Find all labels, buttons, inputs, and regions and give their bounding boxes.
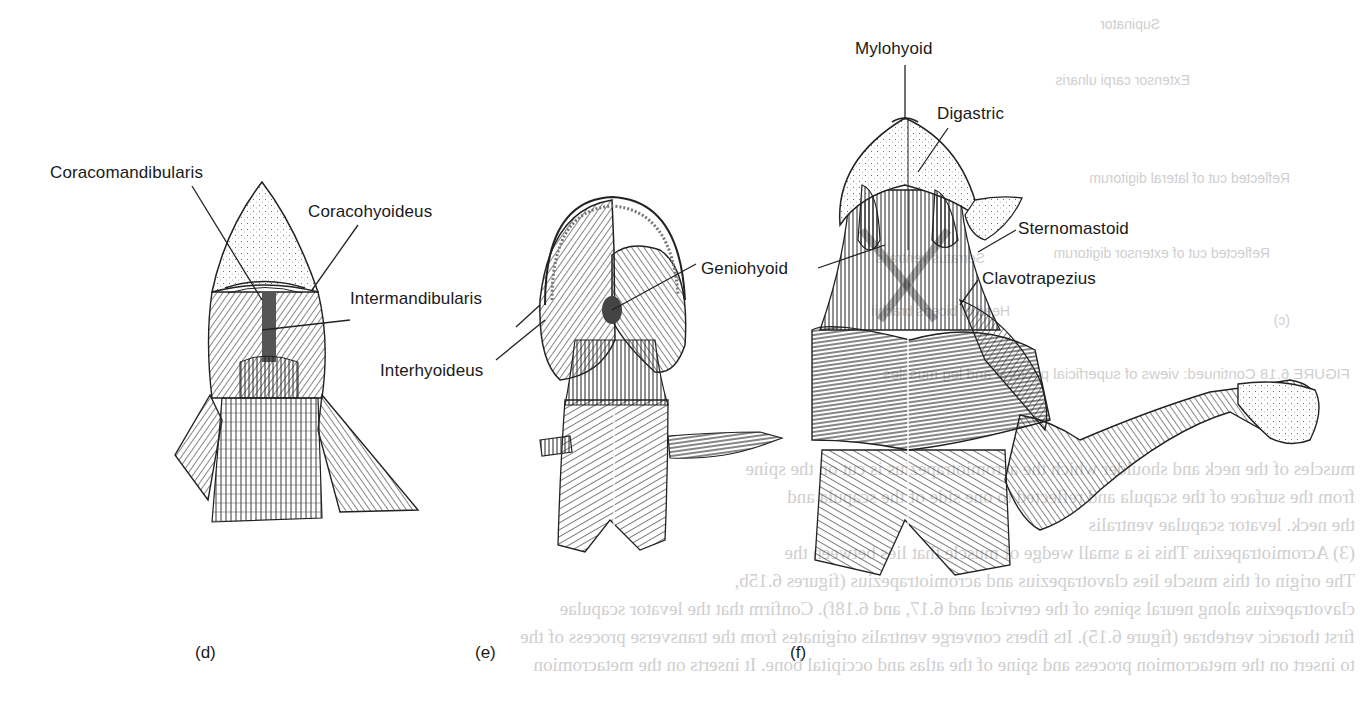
label-mylohyoid: Mylohyoid xyxy=(855,40,932,58)
panel-letter-e: (e) xyxy=(475,643,496,663)
panel-letter-f: (f) xyxy=(790,643,806,663)
label-coracomandibularis: Coracomandibularis xyxy=(50,164,203,182)
label-intermandibularis: Intermandibularis xyxy=(350,290,482,308)
panel-letter-d: (d) xyxy=(195,643,216,663)
label-clavotrapezius: Clavotrapezius xyxy=(982,270,1096,288)
label-interhyoideus: Interhyoideus xyxy=(380,362,483,380)
textbook-page: Supinator Extensor carpi ulnaris Reflect… xyxy=(0,0,1364,701)
label-digastric: Digastric xyxy=(937,105,1004,123)
label-geniohyoid: Geniohyoid xyxy=(701,260,788,278)
cat-specimen xyxy=(812,118,1319,575)
label-coracohyoideus: Coracohyoideus xyxy=(308,203,432,221)
mudpuppy-specimen xyxy=(540,197,782,552)
anatomy-illustrations xyxy=(0,0,1364,701)
shark-specimen xyxy=(175,182,418,522)
label-sternomastoid: Sternomastoid xyxy=(1018,220,1129,238)
